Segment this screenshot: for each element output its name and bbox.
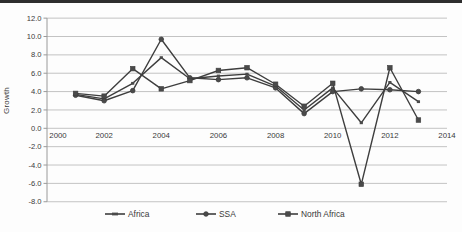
- circle-marker: [204, 212, 209, 217]
- legend-item-africa: Africa: [105, 209, 150, 219]
- legend-label: Africa: [128, 209, 150, 219]
- x-tick-label: 2008: [267, 131, 284, 140]
- y-tick-label: -2.0: [28, 142, 41, 151]
- circle-marker: [159, 37, 164, 42]
- x-tick-label: 2014: [438, 131, 456, 140]
- square-marker: [245, 65, 250, 70]
- legend-label: North Africa: [301, 209, 345, 219]
- square-marker: [302, 104, 307, 109]
- legend-item-ssa: SSA: [196, 209, 236, 219]
- y-tick-label: 2.0: [31, 106, 42, 115]
- circle-marker: [359, 87, 364, 92]
- legend-label: SSA: [219, 209, 236, 219]
- circle-marker: [245, 76, 250, 81]
- dash-marker: [131, 82, 134, 85]
- y-tick-label: 6.0: [31, 69, 42, 78]
- square-marker: [273, 82, 278, 87]
- series-line-north-africa: [76, 68, 419, 185]
- square-marker: [286, 212, 291, 217]
- x-tick-label: 2006: [210, 131, 227, 140]
- growth-line-chart: 12.010.08.06.04.02.00.0-2.0-4.0-6.0-8.02…: [0, 0, 462, 232]
- square-marker: [188, 78, 193, 83]
- dash-marker: [160, 56, 163, 59]
- circle-marker: [388, 87, 393, 92]
- circle-marker: [416, 89, 421, 94]
- y-tick-label: -8.0: [28, 197, 41, 206]
- circle-marker: [302, 111, 307, 116]
- x-tick-label: 2002: [95, 131, 112, 140]
- x-tick-label: 2000: [49, 131, 67, 140]
- y-tick-label: 8.0: [31, 50, 42, 59]
- y-tick-label: -4.0: [28, 161, 41, 170]
- dash-marker: [112, 213, 118, 216]
- x-tick-label: 2004: [153, 131, 171, 140]
- dash-marker: [417, 100, 420, 103]
- square-marker: [216, 68, 221, 73]
- square-marker: [388, 65, 393, 70]
- dash-marker: [388, 81, 391, 84]
- square-marker: [359, 182, 364, 187]
- y-tick-label: 12.0: [27, 14, 42, 23]
- chart-figure: Growth 12.010.08.06.04.02.00.0-2.0-4.0-6…: [0, 0, 462, 232]
- circle-marker: [102, 98, 107, 103]
- circle-marker: [216, 77, 221, 82]
- y-tick-label: 0.0: [31, 124, 42, 133]
- circle-marker: [130, 88, 135, 93]
- square-marker: [159, 87, 164, 92]
- x-tick-label: 2012: [381, 131, 398, 140]
- x-tick-label: 2010: [324, 131, 342, 140]
- square-marker: [102, 94, 107, 99]
- dash-marker: [360, 121, 363, 124]
- square-marker: [73, 91, 78, 96]
- y-tick-label: -6.0: [28, 179, 41, 188]
- y-tick-label: 4.0: [31, 87, 42, 96]
- square-marker: [416, 118, 421, 123]
- y-tick-label: 10.0: [27, 32, 42, 41]
- square-marker: [330, 81, 335, 86]
- square-marker: [130, 66, 135, 71]
